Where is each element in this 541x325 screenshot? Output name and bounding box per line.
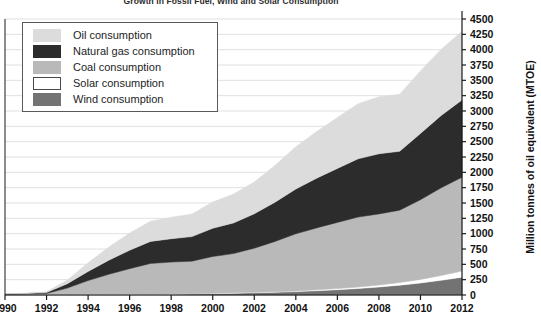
y-tick-label: 1500 bbox=[470, 197, 494, 209]
x-tick-label: 2012 bbox=[450, 302, 474, 314]
x-tick-label: 1994 bbox=[76, 302, 100, 314]
chart-container: Growth in Fossil Fuel, Wind and Solar Co… bbox=[0, 0, 541, 325]
x-tick-label: 2004 bbox=[284, 302, 308, 314]
x-tick-label: 2010 bbox=[409, 302, 433, 314]
x-tick-label: 2006 bbox=[326, 302, 350, 314]
x-tick-label: 1998 bbox=[160, 302, 184, 314]
y-tick-label: 3500 bbox=[470, 74, 494, 86]
legend-item-label: Coal consumption bbox=[73, 62, 161, 73]
y-axis-title: Million tonnes of oil equivalent (MTOE) bbox=[524, 60, 536, 253]
legend-swatch bbox=[33, 45, 61, 58]
legend-item-label: Oil consumption bbox=[73, 30, 152, 41]
x-tick-label: 1992 bbox=[35, 302, 59, 314]
legend-item[interactable]: Wind consumption bbox=[23, 91, 217, 107]
y-tick-label: 250 bbox=[470, 273, 488, 285]
x-axis-ticks: 1990199219941996199820002002200420062008… bbox=[0, 295, 474, 314]
y-axis-ticks: 0250500750100012501500175020002250250027… bbox=[462, 13, 494, 301]
x-tick-label: 1996 bbox=[118, 302, 142, 314]
legend-item-label: Wind consumption bbox=[73, 94, 164, 105]
legend: Oil consumptionNatural gas consumptionCo… bbox=[22, 22, 218, 112]
legend-swatch bbox=[33, 77, 61, 90]
y-tick-label: 3250 bbox=[470, 89, 494, 101]
y-tick-label: 0 bbox=[470, 289, 476, 301]
legend-item[interactable]: Solar consumption bbox=[23, 75, 217, 91]
y-tick-label: 1750 bbox=[470, 181, 494, 193]
y-tick-label: 4250 bbox=[470, 28, 494, 40]
y-tick-label: 1000 bbox=[470, 227, 494, 239]
y-tick-label: 2750 bbox=[470, 120, 494, 132]
y-tick-label: 1250 bbox=[470, 212, 494, 224]
legend-swatch bbox=[33, 93, 61, 106]
x-tick-label: 2000 bbox=[201, 302, 225, 314]
legend-item[interactable]: Oil consumption bbox=[23, 27, 217, 43]
y-tick-label: 4500 bbox=[470, 13, 494, 25]
legend-swatch bbox=[33, 61, 61, 74]
x-tick-label: 2002 bbox=[243, 302, 267, 314]
y-tick-label: 2000 bbox=[470, 166, 494, 178]
y-tick-label: 500 bbox=[470, 258, 488, 270]
y-tick-label: 2500 bbox=[470, 135, 494, 147]
legend-swatch bbox=[33, 29, 61, 42]
x-tick-label: 1990 bbox=[0, 302, 17, 314]
y-tick-label: 2250 bbox=[470, 151, 494, 163]
legend-item-label: Natural gas consumption bbox=[73, 46, 195, 57]
x-tick-label: 2008 bbox=[367, 302, 391, 314]
y-tick-label: 3750 bbox=[470, 59, 494, 71]
legend-item[interactable]: Natural gas consumption bbox=[23, 43, 217, 59]
y-axis-title-text: Million tonnes of oil equivalent (MTOE) bbox=[524, 60, 536, 253]
legend-item[interactable]: Coal consumption bbox=[23, 59, 217, 75]
y-tick-label: 750 bbox=[470, 243, 488, 255]
legend-item-label: Solar consumption bbox=[73, 78, 164, 89]
y-tick-label: 3000 bbox=[470, 105, 494, 117]
y-tick-label: 4000 bbox=[470, 43, 494, 55]
